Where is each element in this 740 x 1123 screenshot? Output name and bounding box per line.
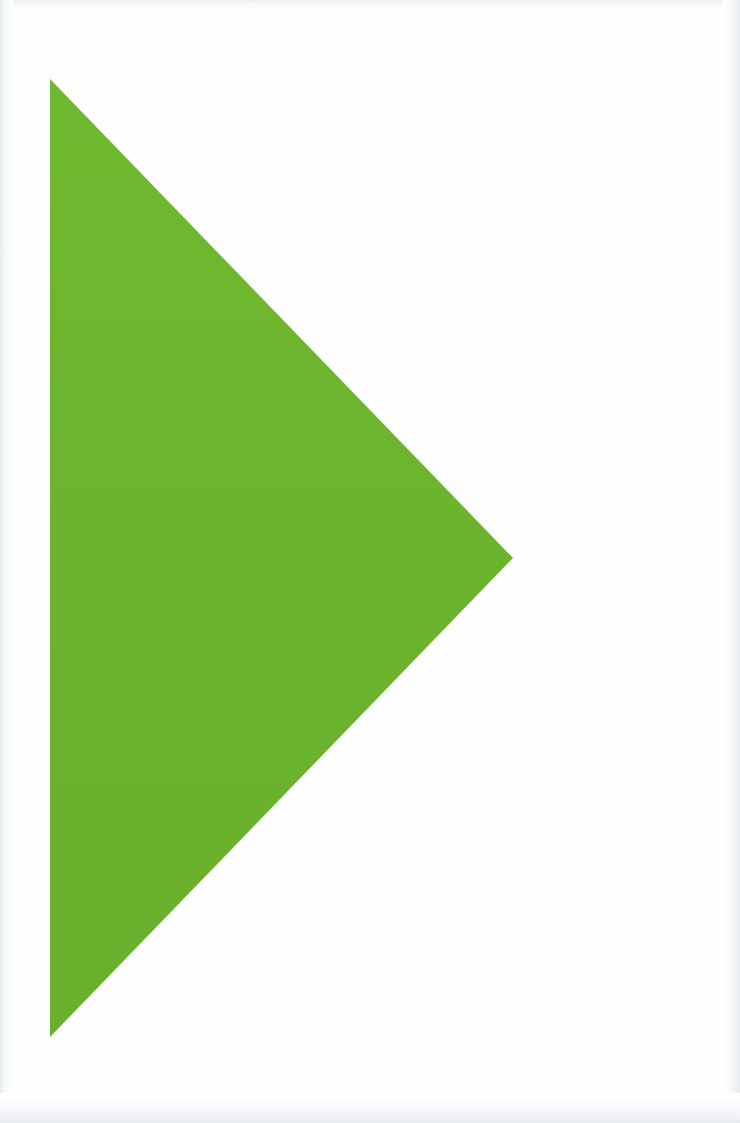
page-canvas <box>0 0 740 1123</box>
triangle-svg <box>0 0 740 1123</box>
green-triangle-shape <box>50 79 513 1037</box>
artwork-container <box>0 0 740 1123</box>
